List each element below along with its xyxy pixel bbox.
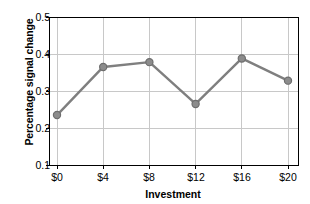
- plot-area: [0, 0, 310, 204]
- data-point-marker-5: [284, 77, 291, 84]
- chart-figure: Percentage signal change 0.1 0.2 0.3 0.4…: [0, 0, 310, 204]
- data-point-marker-2: [146, 59, 153, 66]
- data-series-line: [57, 58, 288, 115]
- data-point-marker-4: [238, 55, 245, 62]
- data-point-marker-1: [100, 63, 107, 70]
- gridlines: [49, 17, 298, 165]
- axis-ticks: [46, 17, 288, 169]
- data-point-marker-3: [192, 100, 199, 107]
- series-line-percentage-signal-change: [57, 58, 288, 115]
- data-point-marker-0: [53, 111, 60, 118]
